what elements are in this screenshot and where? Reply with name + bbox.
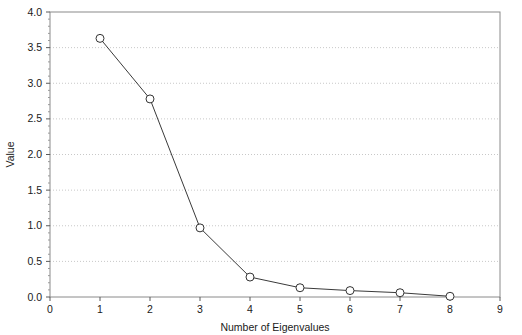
y-tick-label: 3.5 <box>27 41 42 53</box>
y-tick-label: 2.0 <box>27 148 42 160</box>
data-point-marker <box>146 95 154 103</box>
x-tick-label: 5 <box>297 303 303 315</box>
x-tick-label: 7 <box>397 303 403 315</box>
y-tick-label: 3.0 <box>27 77 42 89</box>
x-tick-label: 9 <box>497 303 503 315</box>
chart-canvas: 0.00.51.01.52.02.53.03.54.0 0123456789 N… <box>0 0 522 335</box>
y-tick-label: 1.0 <box>27 219 42 231</box>
y-tick-label: 2.5 <box>27 112 42 124</box>
y-tick-label: 4.0 <box>27 6 42 18</box>
y-tick-label: 1.5 <box>27 184 42 196</box>
x-tick-label: 2 <box>147 303 153 315</box>
y-tick-label: 0.0 <box>27 291 42 303</box>
data-point-marker <box>196 224 204 232</box>
data-point-marker <box>246 273 254 281</box>
x-axis-tick-labels: 0123456789 <box>47 303 503 315</box>
data-point-marker <box>296 284 304 292</box>
x-tick-label: 8 <box>447 303 453 315</box>
x-tick-label: 0 <box>47 303 53 315</box>
y-axis-ticks <box>46 12 50 297</box>
y-tick-label: 0.5 <box>27 255 42 267</box>
data-markers <box>96 34 454 300</box>
series-line <box>100 38 450 296</box>
x-axis-ticks <box>50 297 500 301</box>
y-axis-tick-labels: 0.00.51.01.52.02.53.03.54.0 <box>27 6 42 303</box>
scree-plot-figure: 0.00.51.01.52.02.53.03.54.0 0123456789 N… <box>0 0 522 335</box>
x-tick-label: 6 <box>347 303 353 315</box>
x-tick-label: 1 <box>97 303 103 315</box>
data-point-marker <box>446 292 454 300</box>
data-line <box>100 38 450 296</box>
data-point-marker <box>96 34 104 42</box>
x-tick-label: 3 <box>197 303 203 315</box>
data-point-marker <box>346 287 354 295</box>
x-tick-label: 4 <box>247 303 253 315</box>
gridlines-horizontal <box>50 48 500 262</box>
x-axis-title: Number of Eigenvalues <box>220 321 329 333</box>
y-axis-title: Value <box>4 141 16 167</box>
data-point-marker <box>396 289 404 297</box>
